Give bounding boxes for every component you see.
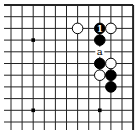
black-stone (95, 35, 106, 46)
white-stone-disc (95, 70, 106, 81)
white-stone-disc (72, 23, 83, 34)
black-stone-disc (95, 35, 106, 46)
white-stone (95, 70, 106, 81)
point-label-a: a (97, 46, 103, 57)
stones: 1 (72, 23, 116, 92)
black-stone (106, 70, 117, 81)
white-stone (72, 23, 83, 34)
star-point (98, 109, 102, 113)
black-stone (95, 58, 106, 69)
black-stone (106, 82, 117, 93)
white-stone (106, 23, 117, 34)
black-stone-disc (106, 70, 117, 81)
point-labels: a (95, 46, 104, 57)
black-stone-disc (106, 82, 117, 93)
white-stone-disc (106, 58, 117, 69)
go-board: a 1 (0, 0, 139, 136)
black-stone-disc (95, 58, 106, 69)
star-point (31, 38, 35, 42)
star-point (31, 109, 35, 113)
white-stone-disc (106, 23, 117, 34)
white-stone (106, 58, 117, 69)
move-number-label: 1 (97, 24, 103, 34)
black-stone: 1 (95, 23, 106, 34)
